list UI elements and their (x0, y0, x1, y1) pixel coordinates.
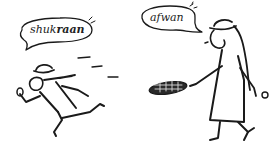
left-bubble-text: shukraan (30, 24, 85, 35)
running-man (17, 65, 104, 136)
left-bubble-bold: raan (56, 23, 84, 36)
speed-lines (78, 57, 118, 77)
tray (148, 79, 187, 96)
right-bubble-word: afwan (150, 11, 184, 24)
right-bubble-text: afwan (150, 12, 184, 23)
woman-with-tray (190, 20, 268, 140)
left-bubble-regular: shuk (30, 23, 56, 36)
